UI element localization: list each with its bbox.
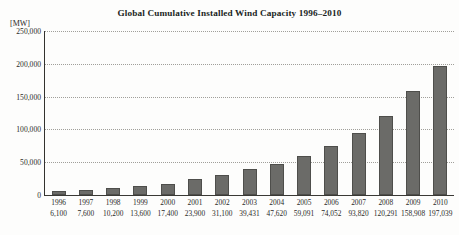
gridline bbox=[45, 31, 454, 32]
x-axis-column-label: 199810,200 bbox=[100, 198, 127, 219]
x-tick-year: 1998 bbox=[100, 198, 127, 208]
x-tick-value: 6,100 bbox=[45, 209, 72, 219]
x-axis-column-label: 2010197,039 bbox=[427, 198, 454, 219]
bar bbox=[243, 169, 257, 195]
x-axis-column-label: 200674,052 bbox=[318, 198, 345, 219]
x-tick-value: 93,820 bbox=[345, 209, 372, 219]
bar bbox=[133, 186, 147, 195]
x-tick-value: 10,200 bbox=[100, 209, 127, 219]
y-tick-label: 200,000 bbox=[0, 59, 41, 68]
bar bbox=[215, 175, 229, 195]
bar bbox=[188, 179, 202, 195]
x-tick-year: 2010 bbox=[427, 198, 454, 208]
chart-title: Global Cumulative Installed Wind Capacit… bbox=[0, 8, 459, 18]
x-axis-column-label: 199913,600 bbox=[127, 198, 154, 219]
x-axis-column-label: 200793,820 bbox=[345, 198, 372, 219]
x-axis-column-label: 200231,100 bbox=[209, 198, 236, 219]
x-tick-value: 120,291 bbox=[372, 209, 399, 219]
x-tick-year: 2001 bbox=[181, 198, 208, 208]
x-tick-value: 158,908 bbox=[399, 209, 426, 219]
x-tick-year: 2006 bbox=[318, 198, 345, 208]
bar bbox=[106, 188, 120, 195]
x-axis-column-label: 200447,620 bbox=[263, 198, 290, 219]
x-tick-value: 197,039 bbox=[427, 209, 454, 219]
y-tick-label: 150,000 bbox=[0, 92, 41, 101]
x-tick-value: 59,091 bbox=[290, 209, 317, 219]
x-tick-year: 2007 bbox=[345, 198, 372, 208]
x-axis-column-label: 200559,091 bbox=[290, 198, 317, 219]
bar bbox=[433, 66, 447, 195]
gridline bbox=[45, 64, 454, 65]
bar bbox=[352, 133, 366, 195]
x-axis-column-label: 19977,600 bbox=[72, 198, 99, 219]
x-tick-value: 47,620 bbox=[263, 209, 290, 219]
x-tick-value: 17,400 bbox=[154, 209, 181, 219]
x-tick-value: 39,431 bbox=[236, 209, 263, 219]
y-tick-label: 0 bbox=[0, 191, 41, 200]
x-tick-year: 2003 bbox=[236, 198, 263, 208]
y-tick-label: 100,000 bbox=[0, 125, 41, 134]
wind-capacity-bar-chart: Global Cumulative Installed Wind Capacit… bbox=[0, 0, 459, 235]
x-axis-column-label: 200017,400 bbox=[154, 198, 181, 219]
x-axis-labels: 19966,10019977,600199810,200199913,60020… bbox=[45, 198, 454, 230]
y-tick-label: 50,000 bbox=[0, 158, 41, 167]
x-axis-column-label: 200339,431 bbox=[236, 198, 263, 219]
bar bbox=[406, 91, 420, 195]
bar bbox=[270, 164, 284, 195]
bar bbox=[79, 190, 93, 195]
x-tick-value: 23,900 bbox=[181, 209, 208, 219]
x-axis-column-label: 2009158,908 bbox=[399, 198, 426, 219]
x-tick-year: 2008 bbox=[372, 198, 399, 208]
x-tick-year: 2005 bbox=[290, 198, 317, 208]
x-tick-year: 1996 bbox=[45, 198, 72, 208]
bar bbox=[52, 191, 66, 195]
y-tick-label: 250,000 bbox=[0, 27, 41, 36]
axis-baseline bbox=[45, 195, 454, 196]
x-axis-column-label: 19966,100 bbox=[45, 198, 72, 219]
x-tick-year: 2004 bbox=[263, 198, 290, 208]
y-axis-tick-labels: 050,000100,000150,000200,000250,000 bbox=[0, 31, 41, 195]
x-tick-year: 2009 bbox=[399, 198, 426, 208]
y-axis-line bbox=[44, 31, 45, 196]
gridline bbox=[45, 97, 454, 98]
x-tick-year: 2002 bbox=[209, 198, 236, 208]
x-tick-year: 1997 bbox=[72, 198, 99, 208]
x-tick-value: 31,100 bbox=[209, 209, 236, 219]
x-axis-column-label: 200123,900 bbox=[181, 198, 208, 219]
bar bbox=[297, 156, 311, 195]
bar bbox=[324, 146, 338, 195]
bar bbox=[379, 116, 393, 195]
x-tick-value: 74,052 bbox=[318, 209, 345, 219]
x-tick-year: 2000 bbox=[154, 198, 181, 208]
plot-area bbox=[45, 31, 454, 195]
x-tick-value: 13,600 bbox=[127, 209, 154, 219]
x-axis-column-label: 2008120,291 bbox=[372, 198, 399, 219]
x-tick-value: 7,600 bbox=[72, 209, 99, 219]
bar bbox=[161, 184, 175, 195]
x-tick-year: 1999 bbox=[127, 198, 154, 208]
